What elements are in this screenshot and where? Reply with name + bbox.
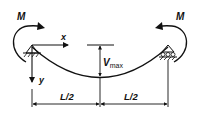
right-moment-arrow-icon (155, 22, 187, 62)
vmax-label: Vmax (103, 57, 123, 69)
x-axis-label: x (60, 32, 67, 42)
half-span-right-label: L/2 (124, 91, 138, 102)
beam-deflection-diagram: M M x y Vmax L/2 L/2 (0, 0, 200, 113)
y-axis-label: y (38, 75, 45, 85)
vmax-label-subscript: max (110, 62, 124, 69)
moment-right-label: M (176, 11, 185, 22)
half-span-left-label: L/2 (60, 91, 74, 102)
moment-left-label: M (17, 11, 26, 22)
